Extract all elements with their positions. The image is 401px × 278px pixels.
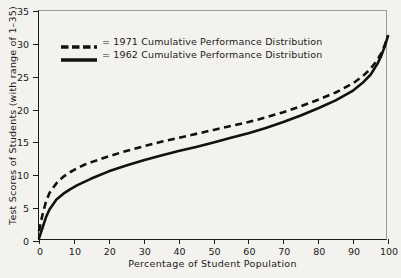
plot-area: 05101520253035 0102030405060708090100 = … — [38, 10, 387, 240]
y-tick-label: 15 — [17, 136, 29, 150]
x-tick: 60 — [248, 239, 249, 244]
legend-label-1962: = 1962 Cumulative Performance Distributi… — [102, 49, 322, 60]
x-tick-label: 80 — [313, 246, 325, 257]
x-tick-label: 90 — [348, 246, 360, 257]
x-tick: 30 — [144, 239, 145, 244]
y-tick-label: 20 — [17, 104, 29, 118]
x-tick-label: 10 — [69, 246, 81, 257]
y-tick: 30 — [33, 44, 39, 45]
y-axis-title: Test Scores of Students (with range of 1… — [7, 0, 18, 232]
legend-item-1962: = 1962 Cumulative Performance Distributi… — [61, 48, 322, 61]
x-tick: 90 — [353, 239, 354, 244]
x-tick: 80 — [318, 239, 319, 244]
y-tick: 35 — [33, 11, 39, 12]
x-tick-label: 0 — [37, 246, 43, 257]
x-tick: 40 — [179, 239, 180, 244]
chart-legend: = 1971 Cumulative Performance Distributi… — [61, 35, 322, 61]
chart-figure: 05101520253035 0102030405060708090100 = … — [0, 0, 401, 278]
y-tick: 10 — [33, 175, 39, 176]
y-tick-label: 25 — [17, 71, 29, 85]
y-tick: 15 — [33, 142, 39, 143]
x-tick-label: 70 — [278, 246, 290, 257]
x-tick-label: 100 — [380, 246, 398, 257]
series-line-1971 — [39, 36, 388, 231]
x-tick: 50 — [214, 239, 215, 244]
y-tick-label: 10 — [17, 169, 29, 183]
x-tick-label: 40 — [174, 246, 186, 257]
y-tick-label: 5 — [23, 202, 29, 216]
series-line-1962 — [39, 36, 388, 238]
legend-item-1971: = 1971 Cumulative Performance Distributi… — [61, 35, 322, 48]
legend-label-1971: = 1971 Cumulative Performance Distributi… — [102, 36, 322, 47]
x-tick: 100 — [388, 239, 389, 244]
y-tick-label: 35 — [17, 5, 29, 19]
y-tick-label: 0 — [23, 235, 29, 249]
y-tick: 5 — [33, 208, 39, 209]
x-tick: 20 — [109, 239, 110, 244]
x-tick: 10 — [74, 239, 75, 244]
x-tick-label: 30 — [139, 246, 151, 257]
x-tick: 0 — [39, 239, 40, 244]
solid-line-swatch — [61, 50, 97, 60]
x-axis-title: Percentage of Student Population — [38, 258, 387, 269]
y-tick: 25 — [33, 77, 39, 78]
x-tick-label: 60 — [243, 246, 255, 257]
dashed-line-swatch — [61, 37, 97, 47]
y-tick: 20 — [33, 110, 39, 111]
x-tick: 70 — [283, 239, 284, 244]
x-tick-label: 20 — [104, 246, 116, 257]
x-tick-label: 50 — [208, 246, 220, 257]
y-tick-label: 30 — [17, 38, 29, 52]
